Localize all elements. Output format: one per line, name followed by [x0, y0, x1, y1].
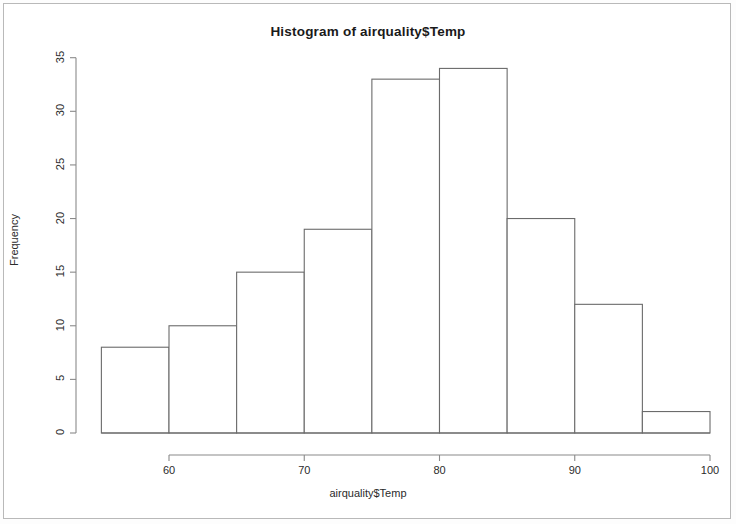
x-axis-label: airquality$Temp: [0, 487, 736, 499]
x-tick-label: 90: [555, 464, 595, 476]
x-tick-label: 80: [420, 464, 460, 476]
y-tick-label: 20: [54, 205, 66, 231]
y-tick-label: 35: [54, 44, 66, 70]
y-tick-label: 5: [54, 365, 66, 391]
histogram-bar: [101, 347, 169, 433]
y-tick-label: 25: [54, 151, 66, 177]
x-tick-label: 70: [284, 464, 324, 476]
histogram-bar: [169, 326, 237, 433]
plot-area: [0, 0, 736, 524]
chart-title: Histogram of airquality$Temp: [0, 24, 736, 39]
x-tick-label: 60: [149, 464, 189, 476]
histogram-bar: [575, 304, 643, 433]
y-tick-label: 10: [54, 312, 66, 338]
screenshot-page: Histogram of airquality$Temp airquality$…: [0, 0, 736, 524]
bar-group: [101, 68, 710, 433]
histogram-bar: [440, 68, 508, 433]
histogram-bar: [372, 79, 440, 433]
y-axis-label: Frequency: [8, 200, 20, 280]
histogram-chart: Histogram of airquality$Temp airquality$…: [0, 0, 736, 524]
histogram-bar: [304, 229, 372, 433]
y-tick-label: 0: [54, 419, 66, 445]
y-tick-label: 30: [54, 97, 66, 123]
histogram-bar: [642, 412, 710, 433]
histogram-bar: [507, 219, 575, 433]
histogram-bar: [237, 272, 305, 433]
y-tick-label: 15: [54, 258, 66, 284]
x-tick-label: 100: [690, 464, 730, 476]
